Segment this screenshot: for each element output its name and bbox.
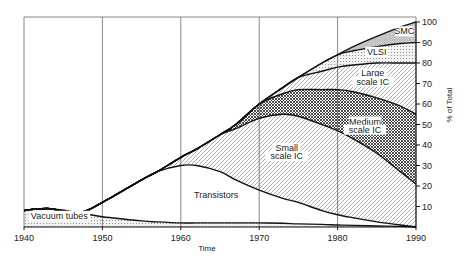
- x-tick-label: 1950: [92, 233, 112, 243]
- x-tick-label: 1970: [249, 233, 269, 243]
- y-tick-label: 80: [422, 58, 432, 68]
- x-tick-label: 1960: [171, 233, 191, 243]
- stacked-area-chart: 1940195019601970198019901020304050607080…: [0, 0, 472, 259]
- region-label: scale IC: [357, 77, 390, 87]
- region-label: scale IC: [349, 125, 382, 135]
- x-tick-label: 1980: [328, 233, 348, 243]
- region-label: Transistors: [194, 190, 239, 200]
- x-tick-label: 1990: [406, 233, 426, 243]
- y-tick-label: 50: [422, 120, 432, 130]
- region-label: Vacuum tubes: [31, 211, 88, 221]
- y-tick-label: 100: [422, 17, 437, 27]
- x-tick-label: 1940: [14, 233, 34, 243]
- y-tick-label: 90: [422, 38, 432, 48]
- y-tick-label: 70: [422, 79, 432, 89]
- y-tick-label: 20: [422, 181, 432, 191]
- region-label: scale IC: [270, 151, 303, 161]
- region-label: SMC: [394, 26, 415, 36]
- y-tick-label: 60: [422, 99, 432, 109]
- y-tick-label: 30: [422, 161, 432, 171]
- y-tick-label: 40: [422, 140, 432, 150]
- y-tick-label: 10: [422, 202, 432, 212]
- x-axis-title: Time: [198, 244, 216, 253]
- y-axis-title: % of Total: [445, 87, 454, 122]
- region-label: VLSI: [367, 47, 387, 57]
